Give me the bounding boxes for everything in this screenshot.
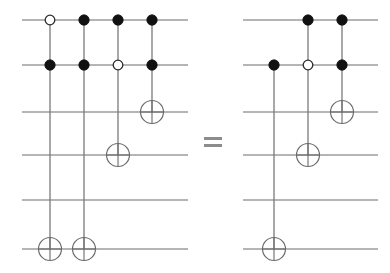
gate-2-filled-control-dot-0 <box>303 15 313 25</box>
circuit-canvas <box>0 0 390 273</box>
right-circuit <box>243 15 378 261</box>
gate-3-filled-control-dot-0 <box>113 15 123 25</box>
gate-1-filled-control-dot-0 <box>269 60 279 70</box>
gate-3-filled-control-dot-0 <box>337 15 347 25</box>
equals-bar-top <box>204 137 222 140</box>
gate-4-filled-control-dot-1 <box>147 60 157 70</box>
gate-2-open-control-dot-1 <box>303 60 313 70</box>
gate-1-filled-control-dot-1 <box>45 60 55 70</box>
gate-3-open-control-dot-1 <box>113 60 123 70</box>
left-circuit <box>22 15 188 261</box>
equals-bar-bottom <box>204 144 222 147</box>
circuit-identity-figure <box>0 0 390 273</box>
gate-4-filled-control-dot-0 <box>147 15 157 25</box>
gate-3-filled-control-dot-1 <box>337 60 347 70</box>
equals-sign <box>204 137 222 147</box>
gate-2-filled-control-dot-1 <box>79 60 89 70</box>
gate-1-open-control-dot-0 <box>45 15 55 25</box>
gate-2-filled-control-dot-0 <box>79 15 89 25</box>
